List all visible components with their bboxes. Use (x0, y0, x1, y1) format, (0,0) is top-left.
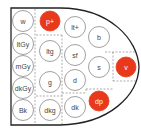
tone-label: v (124, 64, 128, 71)
tone-circle-dk: dk (65, 97, 86, 118)
tone-circle-d: d (65, 70, 86, 91)
tone-label: s (97, 64, 101, 71)
tone-circle-dkg: dkg (40, 100, 61, 121)
tone-circle-g: g (40, 72, 61, 93)
tone-label: dp (95, 98, 103, 106)
tone-label: d (73, 77, 77, 84)
tone-circle-p-plus: p+ (40, 11, 60, 31)
tone-label: dkg (44, 107, 55, 115)
tone-circle-b: b (89, 27, 110, 48)
tone-circle-dp: dp (89, 91, 109, 111)
tone-circle-Bk: Bk (13, 100, 34, 121)
tone-circle-w: w (13, 11, 34, 32)
tone-circle-mGy: mGy (13, 56, 34, 77)
tone-label: sf (72, 52, 78, 59)
tone-circle-lt-plus: lt+ (65, 17, 86, 38)
tone-label: mGy (16, 63, 31, 71)
tone-label: ltg (46, 48, 54, 56)
tone-label: ltGy (17, 41, 30, 49)
tone-label: w (19, 18, 26, 25)
tone-circle-ltGy: ltGy (13, 34, 34, 55)
tone-circle-v: v (116, 57, 136, 77)
tone-label: Bk (19, 107, 28, 114)
tone-label: dkGy (15, 85, 32, 93)
tone-circle-sf: sf (65, 45, 86, 66)
tone-label: p+ (46, 18, 54, 26)
tone-circle-s: s (89, 57, 110, 78)
tone-circle-ltg: ltg (40, 41, 61, 62)
tone-label: lt+ (71, 24, 79, 31)
tone-label: b (97, 34, 101, 41)
tone-label: dk (71, 104, 79, 111)
tone-diagram: wltGymGydkGyBkp+ltggdkglt+sfddkbsdpv (0, 0, 141, 131)
tone-circle-dkGy: dkGy (13, 78, 34, 99)
tone-label: g (48, 79, 52, 87)
